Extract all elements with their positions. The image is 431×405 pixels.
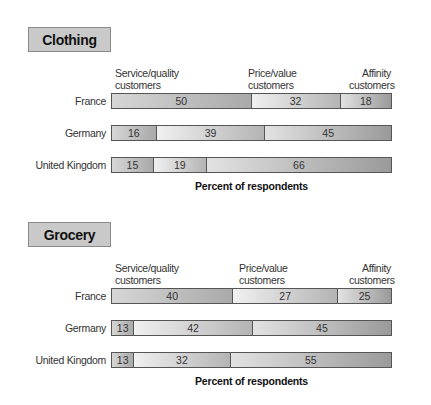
bar-uk: 13 32 55 — [111, 352, 392, 368]
legend-price-value: Price/value customers — [239, 262, 288, 286]
segment-price: 27 — [233, 289, 338, 303]
segment-affinity: 45 — [253, 321, 391, 335]
row-label-germany: Germany — [65, 322, 106, 334]
legend-service-quality: Service/quality customers — [115, 262, 179, 286]
grocery-panel: Grocery Service/quality customers Price/… — [0, 0, 431, 405]
row-label-uk: United Kingdom — [35, 354, 106, 366]
bar-france: 40 27 25 — [111, 288, 392, 304]
segment-service: 13 — [112, 353, 134, 367]
segment-service: 40 — [112, 289, 233, 303]
row-label-france: France — [75, 290, 106, 302]
bar-germany: 13 42 45 — [111, 320, 392, 336]
segment-affinity: 55 — [231, 353, 391, 367]
legend-affinity: Affinity customers — [349, 262, 391, 286]
segment-price: 32 — [134, 353, 230, 367]
segment-service: 13 — [112, 321, 134, 335]
segment-price: 42 — [134, 321, 253, 335]
x-axis-label: Percent of respondents — [111, 375, 392, 387]
segment-affinity: 25 — [338, 289, 391, 303]
panel-title: Grocery — [28, 222, 111, 247]
